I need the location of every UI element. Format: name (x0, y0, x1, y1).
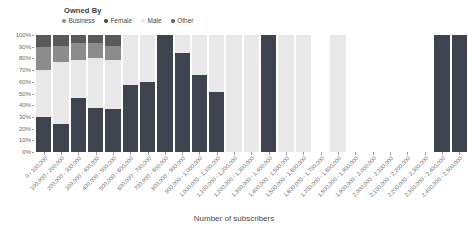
y-axis-tick-label: 20% (19, 126, 31, 132)
bar-segment-male[interactable] (244, 35, 259, 152)
bar-slot (381, 35, 398, 152)
bar-segment-business[interactable] (53, 46, 68, 62)
bar-segment-female[interactable] (123, 85, 138, 152)
legend-item-other[interactable]: Other (171, 17, 194, 24)
bar-segment-female[interactable] (192, 75, 207, 152)
bar-slot (174, 35, 191, 152)
y-axis: Count 100%90%80%70%60%50%40%30%20%10%0% (0, 35, 35, 152)
stacked-bar[interactable] (451, 35, 468, 152)
bar-segment-female[interactable] (53, 124, 68, 152)
stacked-bar[interactable] (329, 35, 346, 152)
bar-slot (295, 35, 312, 152)
bar-segment-male[interactable] (36, 70, 51, 117)
bar-segment-other[interactable] (53, 35, 68, 46)
bar-slot (208, 35, 225, 152)
bar-segment-female[interactable] (175, 53, 190, 152)
bar-slot (364, 35, 381, 152)
legend-item-business[interactable]: Business (62, 17, 95, 24)
y-axis-tick-label: 100% (16, 32, 31, 38)
bar-segment-male[interactable] (71, 60, 86, 99)
bar-segment-male[interactable] (123, 35, 138, 85)
legend-items: BusinessFemaleMaleOther (62, 17, 193, 24)
y-axis-tick-label: 90% (19, 44, 31, 50)
bar-segment-female[interactable] (434, 35, 449, 152)
bar-segment-female[interactable] (88, 108, 103, 152)
bar-segment-female[interactable] (36, 117, 51, 152)
plot-area (35, 35, 468, 152)
bar-slot (122, 35, 139, 152)
bar-segment-other[interactable] (105, 35, 120, 46)
bar-segment-business[interactable] (36, 47, 51, 70)
x-axis: 0 - 100,000100,000 - 200,000200,000 - 30… (35, 152, 468, 208)
legend-swatch-icon (171, 19, 175, 23)
bar-slot (451, 35, 468, 152)
stacked-bar[interactable] (87, 35, 104, 152)
bar-segment-male[interactable] (296, 35, 311, 152)
bar-slot (260, 35, 277, 152)
y-axis-tick-label: 30% (19, 114, 31, 120)
stacked-bar[interactable] (156, 35, 173, 152)
bar-segment-male[interactable] (105, 60, 120, 109)
bar-slot (329, 35, 346, 152)
bar-segment-business[interactable] (105, 46, 120, 60)
legend-item-male[interactable]: Male (141, 17, 162, 24)
x-label-slot: 2,400,000 - 2,500,000 (451, 155, 468, 208)
stacked-bar[interactable] (243, 35, 260, 152)
y-axis-title: Count (0, 89, 1, 110)
bar-segment-female[interactable] (452, 35, 467, 152)
bar-segment-female[interactable] (157, 35, 172, 152)
y-axis-tick-label: 80% (19, 55, 31, 61)
stacked-bar[interactable] (433, 35, 450, 152)
bar-segment-other[interactable] (36, 35, 51, 47)
stacked-bar[interactable] (122, 35, 139, 152)
bar-segment-male[interactable] (53, 62, 68, 124)
bar-segment-business[interactable] (71, 43, 86, 59)
stacked-bar[interactable] (139, 35, 156, 152)
legend-item-female[interactable]: Female (104, 17, 132, 24)
bar-slot (416, 35, 433, 152)
bar-slot (312, 35, 329, 152)
bar-segment-male[interactable] (140, 35, 155, 82)
legend: Owned By BusinessFemaleMaleOther (62, 6, 193, 24)
stacked-bar[interactable] (225, 35, 242, 152)
bar-segment-male[interactable] (192, 35, 207, 75)
stacked-bar[interactable] (52, 35, 69, 152)
bar-segment-male[interactable] (175, 35, 190, 53)
bar-slot (347, 35, 364, 152)
bar-segment-male[interactable] (226, 35, 241, 152)
bar-segment-male[interactable] (88, 58, 103, 107)
bar-slot (243, 35, 260, 152)
bar-slot (35, 35, 52, 152)
stacked-bar[interactable] (208, 35, 225, 152)
stacked-bar[interactable] (277, 35, 294, 152)
bar-segment-other[interactable] (88, 35, 103, 43)
legend-swatch-icon (104, 19, 108, 23)
bar-slot (225, 35, 242, 152)
bar-slot (87, 35, 104, 152)
bar-segment-male[interactable] (278, 35, 293, 152)
stacked-bar[interactable] (260, 35, 277, 152)
bar-segment-male[interactable] (209, 35, 224, 92)
legend-item-label: Business (69, 17, 95, 24)
bar-segment-business[interactable] (88, 43, 103, 58)
x-axis-title: Number of subscribers (0, 214, 468, 223)
bar-slot (433, 35, 450, 152)
legend-item-label: Female (110, 17, 132, 24)
bar-segment-female[interactable] (209, 92, 224, 152)
legend-item-label: Male (148, 17, 162, 24)
stacked-bar[interactable] (295, 35, 312, 152)
stacked-bar[interactable] (35, 35, 52, 152)
bar-segment-female[interactable] (261, 35, 276, 152)
stacked-bar[interactable] (191, 35, 208, 152)
x-axis-labels: 0 - 100,000100,000 - 200,000200,000 - 30… (35, 155, 468, 208)
bar-slot (52, 35, 69, 152)
bar-slot (191, 35, 208, 152)
bar-segment-female[interactable] (140, 82, 155, 152)
stacked-bar[interactable] (104, 35, 121, 152)
bar-segment-other[interactable] (71, 35, 86, 43)
bar-segment-female[interactable] (71, 98, 86, 152)
bar-segment-female[interactable] (105, 109, 120, 152)
stacked-bar[interactable] (174, 35, 191, 152)
bar-segment-male[interactable] (330, 35, 345, 152)
stacked-bar[interactable] (70, 35, 87, 152)
